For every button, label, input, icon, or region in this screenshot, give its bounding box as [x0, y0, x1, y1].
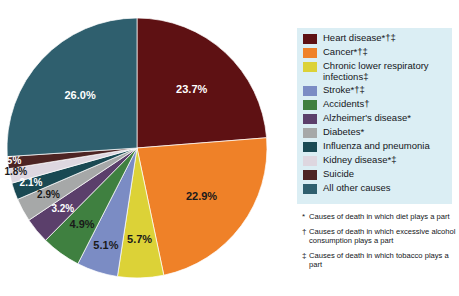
- legend-item-label: Heart disease*†‡: [323, 32, 396, 43]
- legend-list: Heart disease*†‡Cancer*†‡Chronic lower r…: [303, 32, 455, 196]
- pie-slice-value-label: 5.7%: [127, 233, 152, 245]
- legend-item[interactable]: Diabetes*: [303, 126, 455, 138]
- legend-item[interactable]: Accidents†: [303, 98, 455, 110]
- pie-slice-value-label: 23.7%: [176, 83, 207, 95]
- legend-item[interactable]: Chronic lower respiratory infections‡: [303, 60, 455, 82]
- legend-item[interactable]: Alzheimer's disease*: [303, 112, 455, 124]
- footnote: †Causes of death in which excessive alco…: [302, 227, 456, 246]
- legend-color-swatch: [303, 114, 317, 124]
- legend-item[interactable]: Stroke*†‡: [303, 84, 455, 96]
- legend-color-swatch: [303, 34, 317, 44]
- footnote-marker: †: [302, 227, 309, 237]
- footnote-text: Causes of death in which diet plays a pa…: [309, 212, 450, 222]
- legend-item-label: Suicide: [323, 168, 354, 179]
- legend-item-label: Accidents†: [323, 98, 369, 109]
- pie-slice-value-label: 4.9%: [70, 218, 95, 230]
- pie-chart-figure: 23.7%22.9%5.7%5.1%4.9%3.2%2.9%2.1%1.8%1.…: [0, 0, 459, 296]
- legend-item[interactable]: Influenza and pneumonia: [303, 140, 455, 152]
- legend-item-label: Kidney disease*‡: [323, 154, 396, 165]
- footnote-list: *Causes of death in which diet plays a p…: [302, 212, 456, 275]
- legend-color-swatch: [303, 86, 317, 96]
- pie-slice-value-label: 1.5%: [0, 155, 21, 166]
- legend-item-label: Cancer*†‡: [323, 46, 368, 57]
- legend-color-swatch: [303, 156, 317, 166]
- pie-slice-value-label: 22.9%: [186, 190, 217, 202]
- pie-slice-value-label: 26.0%: [64, 89, 95, 101]
- legend-item-label: Alzheimer's disease*: [323, 112, 411, 123]
- legend-item[interactable]: Suicide: [303, 168, 455, 180]
- legend-item[interactable]: Kidney disease*‡: [303, 154, 455, 166]
- pie-slice-value-label: 2.1%: [20, 177, 43, 188]
- legend-color-swatch: [303, 62, 317, 72]
- legend-item-label: Chronic lower respiratory infections‡: [323, 60, 429, 82]
- pie-slice[interactable]: [7, 18, 137, 157]
- legend-color-swatch: [303, 100, 317, 110]
- footnote-text: Causes of death in which tobacco plays a…: [309, 251, 456, 270]
- footnote-marker: *: [302, 212, 309, 222]
- footnote: ‡Causes of death in which tobacco plays …: [302, 251, 456, 270]
- legend-item[interactable]: All other causes: [303, 182, 455, 194]
- pie-slice-value-label: 2.9%: [37, 189, 60, 200]
- legend-item-label: Stroke*†‡: [323, 84, 365, 95]
- legend-item[interactable]: Cancer*†‡: [303, 46, 455, 58]
- legend-item-label: All other causes: [323, 182, 391, 193]
- footnote: *Causes of death in which diet plays a p…: [302, 212, 456, 222]
- footnote-marker: ‡: [302, 251, 309, 261]
- legend-item-label: Diabetes*: [323, 126, 364, 137]
- pie-slice-value-label: 1.8%: [4, 166, 27, 177]
- legend-color-swatch: [303, 48, 317, 58]
- pie-slice-value-label: 5.1%: [93, 239, 118, 251]
- legend-item[interactable]: Heart disease*†‡: [303, 32, 455, 44]
- pie-slice-value-label: 3.2%: [51, 203, 74, 214]
- legend-color-swatch: [303, 128, 317, 138]
- footnote-text: Causes of death in which excessive alcoh…: [309, 227, 456, 246]
- pie-chart-plot-area: 23.7%22.9%5.7%5.1%4.9%3.2%2.9%2.1%1.8%1.…: [0, 0, 280, 296]
- legend-color-swatch: [303, 184, 317, 194]
- legend-color-swatch: [303, 142, 317, 152]
- legend-color-swatch: [303, 170, 317, 180]
- pie-chart-svg: 23.7%22.9%5.7%5.1%4.9%3.2%2.9%2.1%1.8%1.…: [0, 0, 280, 296]
- legend-item-label: Influenza and pneumonia: [323, 140, 430, 151]
